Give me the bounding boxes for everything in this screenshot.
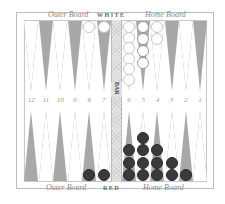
top-right-label: Home Board <box>145 10 186 19</box>
bar-text: BAR <box>113 82 120 95</box>
top-player-label: WHITE <box>97 12 126 18</box>
point-number-11: 11 <box>39 96 53 104</box>
red-checker[interactable] <box>151 157 163 169</box>
bar[interactable] <box>111 20 122 182</box>
point-number-6: 6 <box>122 96 136 104</box>
point-top-10[interactable] <box>165 21 179 91</box>
top-left-label: Outer Board <box>48 10 88 19</box>
point-top-11[interactable] <box>179 21 193 91</box>
point-bottom-4[interactable] <box>68 111 82 181</box>
red-checker[interactable] <box>123 157 135 169</box>
bottom-player-label: RED <box>103 185 120 191</box>
red-checker[interactable] <box>123 144 135 156</box>
red-checker[interactable] <box>180 169 192 181</box>
bottom-left-label: Outer Board <box>46 183 86 192</box>
point-top-12[interactable] <box>193 21 207 91</box>
red-checker[interactable] <box>123 169 135 181</box>
point-number-2: 2 <box>179 96 193 104</box>
red-checker[interactable] <box>98 169 110 181</box>
red-checker[interactable] <box>137 157 149 169</box>
point-number-7: 7 <box>97 96 111 104</box>
point-bottom-3[interactable] <box>53 111 67 181</box>
point-top-3[interactable] <box>53 21 67 91</box>
point-top-2[interactable] <box>39 21 53 91</box>
red-checker[interactable] <box>137 132 149 144</box>
point-bottom-12[interactable] <box>193 111 207 181</box>
white-checker[interactable] <box>98 21 110 33</box>
point-number-4: 4 <box>150 96 164 104</box>
point-number-10: 10 <box>53 96 67 104</box>
point-number-8: 8 <box>82 96 96 104</box>
red-checker[interactable] <box>166 169 178 181</box>
point-number-5: 5 <box>136 96 150 104</box>
point-number-9: 9 <box>68 96 82 104</box>
red-checker[interactable] <box>166 157 178 169</box>
point-number-1: 1 <box>193 96 207 104</box>
point-bottom-1[interactable] <box>24 111 38 181</box>
point-number-3: 3 <box>165 96 179 104</box>
bar-label: BAR <box>111 82 122 97</box>
point-top-4[interactable] <box>68 21 82 91</box>
point-bottom-2[interactable] <box>39 111 53 181</box>
white-checker[interactable] <box>123 74 135 86</box>
point-number-12: 12 <box>24 96 38 104</box>
bottom-right-label: Home Board <box>143 183 184 192</box>
point-top-1[interactable] <box>24 21 38 91</box>
